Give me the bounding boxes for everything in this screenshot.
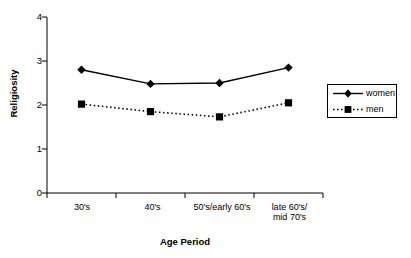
legend-item-men[interactable]: men	[328, 101, 396, 118]
legend-sample-women	[332, 85, 364, 102]
data-point-women-3	[284, 63, 292, 71]
legend-label-men: men	[366, 104, 384, 115]
legend-label-women: women	[366, 88, 395, 99]
data-point-men-0	[78, 101, 85, 108]
data-point-men-3	[285, 99, 292, 106]
plot-area	[0, 0, 411, 258]
legend-item-women[interactable]: women	[328, 85, 396, 102]
series-line-men	[82, 103, 289, 117]
legend-sample-men	[332, 101, 364, 118]
data-point-women-1	[146, 80, 154, 88]
series-line-women	[82, 68, 289, 84]
chart-container: Religiosity Age Period 4 3 2 1 0 30's 40…	[0, 0, 411, 258]
legend: women men	[327, 84, 397, 118]
data-point-women-2	[215, 79, 223, 87]
data-point-men-1	[147, 108, 154, 115]
data-point-men-2	[216, 113, 223, 120]
data-point-women-0	[77, 66, 85, 74]
